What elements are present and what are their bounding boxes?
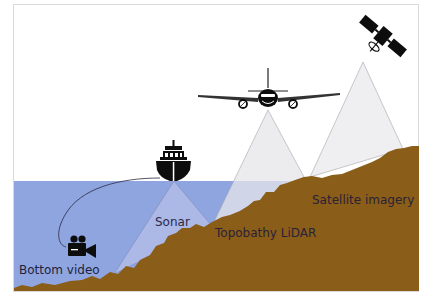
bottom-video-label: Bottom video <box>19 263 100 277</box>
sonar-label: Sonar <box>155 215 190 229</box>
topobathy-lidar-label: Topobathy LiDAR <box>214 226 316 240</box>
coastal-mapping-diagram: Satellite imagery Topobathy LiDAR Sonar … <box>0 0 423 299</box>
satellite-imagery-label: Satellite imagery <box>312 193 414 207</box>
